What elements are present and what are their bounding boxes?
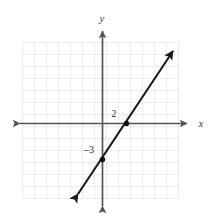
grid-lines <box>22 42 179 199</box>
x-intercept-label: 2 <box>112 108 117 119</box>
y-intercept-label: –3 <box>83 144 94 155</box>
graph-svg: 2 –3 y x <box>0 0 219 216</box>
point-x-intercept <box>124 121 129 126</box>
coordinate-plane-figure: 2 –3 y x <box>0 0 219 216</box>
y-axis-label: y <box>99 12 105 24</box>
x-axis-label: x <box>198 117 204 129</box>
point-y-intercept <box>100 157 105 162</box>
